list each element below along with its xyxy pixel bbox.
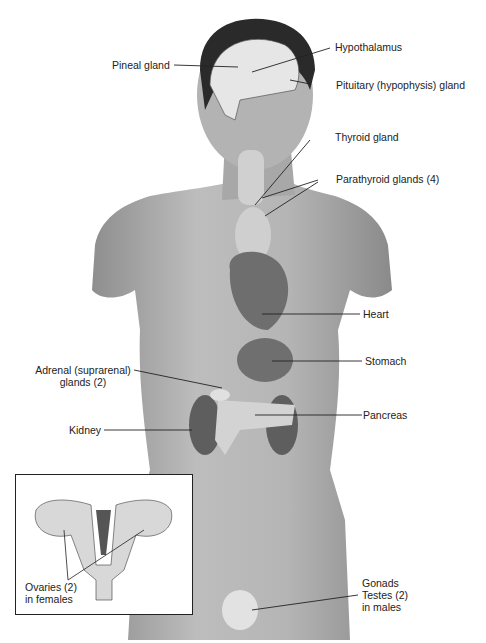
label-testes-line1: Testes (2) <box>362 589 408 601</box>
adrenal-organ <box>210 389 230 401</box>
label-pineal-gland: Pineal gland <box>112 59 170 71</box>
female-inset: Ovaries (2) in females <box>15 474 193 615</box>
label-ovaries-line1: Ovaries (2) <box>25 581 77 593</box>
label-adrenal-line2: glands (2) <box>33 376 133 388</box>
label-heart: Heart <box>363 308 389 320</box>
label-stomach: Stomach <box>365 355 406 367</box>
thyroid-organ <box>238 150 264 205</box>
label-thyroid-gland: Thyroid gland <box>335 131 399 143</box>
label-ovaries: Ovaries (2) in females <box>25 581 77 605</box>
stomach-organ <box>237 338 293 382</box>
label-adrenal-glands: Adrenal (suprarenal) glands (2) <box>33 364 133 388</box>
label-kidney: Kidney <box>69 424 101 436</box>
label-ovaries-line2: in females <box>25 593 77 605</box>
label-pituitary-gland: Pituitary (hypophysis) gland <box>336 79 465 91</box>
label-parathyroid-glands: Parathyroid glands (4) <box>336 173 439 185</box>
label-testes-line2: in males <box>362 601 408 613</box>
label-pancreas: Pancreas <box>363 409 407 421</box>
label-gonads: Gonads Testes (2) in males <box>362 577 408 613</box>
label-gonads-line1: Gonads <box>362 577 408 589</box>
label-adrenal-line1: Adrenal (suprarenal) <box>33 364 133 376</box>
label-hypothalamus: Hypothalamus <box>335 41 402 53</box>
